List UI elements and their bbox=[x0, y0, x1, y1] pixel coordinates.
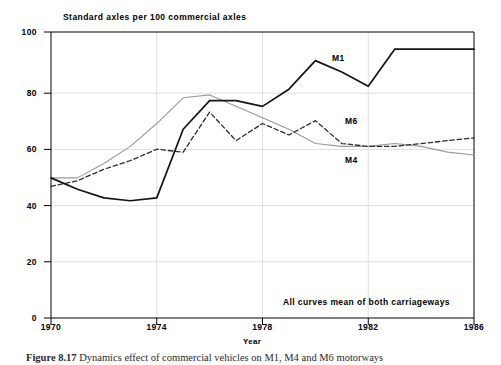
y-axis-title: Standard axles per 100 commercial axles bbox=[63, 12, 246, 22]
y-tick-label-60: 60 bbox=[11, 144, 37, 154]
y-tick-label-100: 100 bbox=[11, 27, 37, 37]
grid-lines bbox=[51, 32, 474, 318]
chart-annotation-note: All curves mean of both carriageways bbox=[283, 297, 450, 307]
x-tick-label-1986: 1986 bbox=[454, 322, 494, 332]
figure-caption: Figure 8.17 Dynamics effect of commercia… bbox=[26, 352, 383, 363]
y-axis-ticks bbox=[44, 32, 51, 318]
y-tick-label-20: 20 bbox=[11, 257, 37, 267]
figure-container: Standard axles per 100 commercial axles … bbox=[0, 0, 501, 365]
series-label-m4: M4 bbox=[345, 155, 358, 165]
figure-caption-text: Dynamics effect of commercial vehicles o… bbox=[79, 352, 383, 363]
series-label-m1: M1 bbox=[332, 53, 345, 63]
figure-caption-number: Figure 8.17 bbox=[26, 352, 77, 363]
x-tick-label-1978: 1978 bbox=[243, 322, 283, 332]
y-tick-label-80: 80 bbox=[11, 88, 37, 98]
x-tick-label-1982: 1982 bbox=[348, 322, 388, 332]
x-tick-label-1970: 1970 bbox=[31, 322, 71, 332]
x-axis-title: Year bbox=[243, 337, 261, 346]
series-label-m6: M6 bbox=[345, 116, 358, 126]
y-tick-label-40: 40 bbox=[11, 201, 37, 211]
line-chart bbox=[0, 0, 501, 365]
x-tick-label-1974: 1974 bbox=[137, 322, 177, 332]
